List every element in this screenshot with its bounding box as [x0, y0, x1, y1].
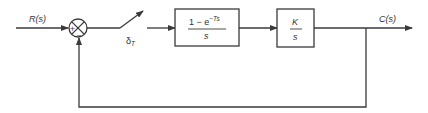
sampler-label: δT — [126, 36, 136, 47]
output-label: C(s) — [379, 14, 396, 24]
plant-block: K s — [277, 9, 314, 47]
output-signal: C(s) — [314, 14, 412, 28]
summing-junction: + − — [69, 19, 87, 40]
plant-denominator: s — [293, 32, 298, 42]
zoh-denominator: s — [204, 31, 209, 41]
input-signal: R(s) — [16, 14, 68, 28]
input-label: R(s) — [29, 14, 46, 24]
sampler-switch-icon — [120, 11, 143, 28]
sampler-switch: δT — [120, 11, 143, 47]
plant-numerator: K — [292, 17, 299, 27]
block-diagram: R(s) + − δT 1 − e−Ts s K s C(s) — [0, 0, 428, 113]
plus-sign: + — [70, 25, 76, 33]
zoh-block: 1 − e−Ts s — [175, 9, 239, 46]
